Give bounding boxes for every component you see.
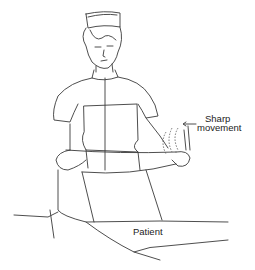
nurse-body (54, 77, 169, 170)
patient-leg (56, 126, 190, 173)
nurse-head (83, 27, 122, 72)
nurse-cap (86, 12, 120, 28)
bed-outline (14, 170, 228, 260)
patient-label: Patient (133, 227, 163, 236)
nurse-collar (92, 70, 118, 170)
nurse-patient-drawing (0, 0, 255, 270)
movement-arrow (183, 122, 196, 126)
sharp-movement-label: Sharp movement (197, 114, 241, 132)
illustration: Sharp movement Patient (0, 0, 255, 270)
sharp-label-line2: movement (197, 123, 241, 132)
